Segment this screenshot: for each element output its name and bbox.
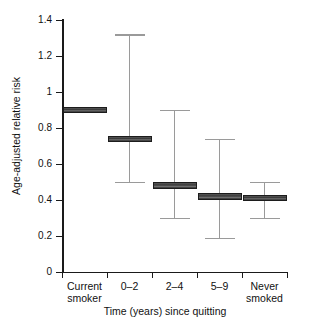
whisker-cap-upper <box>250 182 280 183</box>
whisker-cap-upper <box>160 110 190 111</box>
x-category-label-line: smoker <box>46 292 124 304</box>
x-axis-line <box>61 272 288 274</box>
estimate-bar <box>63 107 107 114</box>
whisker-cap-lower <box>160 218 190 219</box>
y-tick <box>56 164 62 165</box>
x-tick <box>197 272 198 278</box>
x-tick <box>152 272 153 278</box>
y-tick <box>56 20 62 21</box>
x-category-label-line: Never <box>226 280 304 292</box>
estimate-bar <box>153 182 197 189</box>
whisker-cap-upper <box>115 34 145 35</box>
whisker-line <box>174 110 175 218</box>
estimate-bar <box>243 195 287 202</box>
x-tick <box>242 272 243 278</box>
y-tick <box>56 128 62 129</box>
x-category-label: Neversmoked <box>226 280 304 304</box>
y-tick <box>56 56 62 57</box>
y-tick-label: 1.4 <box>12 15 52 25</box>
whisker-line <box>219 139 220 238</box>
y-axis-line <box>62 19 64 273</box>
y-tick <box>56 200 62 201</box>
x-tick <box>287 272 288 278</box>
whisker-cap-lower <box>205 238 235 239</box>
y-axis-title: Age-adjusted relative risk <box>10 36 22 236</box>
whisker-cap-upper <box>205 139 235 140</box>
y-tick-label: 0 <box>12 267 52 277</box>
x-category-label-line: smoked <box>226 292 304 304</box>
estimate-bar <box>108 136 152 143</box>
x-tick <box>62 272 63 278</box>
estimate-bar <box>198 193 242 200</box>
x-axis-title: Time (years) since quitting <box>0 305 330 317</box>
y-tick <box>56 236 62 237</box>
chart-figure: 00.20.40.60.811.21.4 Currentsmoker0–22–4… <box>0 0 330 327</box>
whisker-cap-lower <box>250 218 280 219</box>
whisker-line <box>129 34 130 182</box>
y-tick <box>56 92 62 93</box>
whisker-cap-lower <box>115 182 145 183</box>
x-tick <box>107 272 108 278</box>
